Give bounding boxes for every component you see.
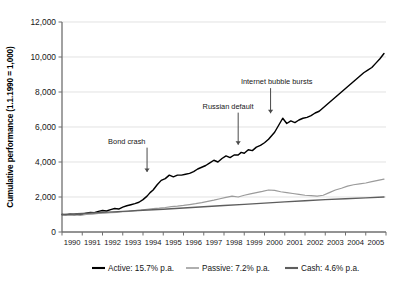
x-tick-label: 1999 [246,238,263,247]
series-line-cash [62,197,384,215]
annotation-label: Russian default [203,102,254,111]
annotation-label: Bond crash [108,137,145,146]
x-tick-label: 1995 [165,238,182,247]
x-tick-label: 2001 [286,238,303,247]
x-tick-label: 1992 [104,238,121,247]
x-tick-label: 1994 [145,238,162,247]
y-tick-label: 6,000 [35,122,56,132]
x-tick-label: 1996 [185,238,202,247]
legend-label-active: Active: 15.7% p.a. [108,264,174,273]
y-tick-label: 12,000 [30,17,56,27]
x-tick-label: 2003 [327,238,344,247]
annotation-arrow-head [268,110,273,113]
x-tick-label: 2000 [266,238,283,247]
x-tick-label: 1991 [84,238,101,247]
y-tick-label: 8,000 [35,87,56,97]
y-tick-label: 4,000 [35,157,56,167]
legend-label-passive: Passive: 7.2% p.a. [202,264,270,273]
x-tick-label: 2004 [347,238,364,247]
legend-label-cash: Cash: 4.6% p.a. [301,264,359,273]
performance-chart: 02,0004,0006,0008,00010,00012,0001990199… [0,0,400,287]
y-tick-label: 2,000 [35,192,56,202]
series-line-active [62,54,384,215]
annotation-arrow-head [236,141,241,144]
y-tick-label: 10,000 [30,52,56,62]
chart-canvas: 02,0004,0006,0008,00010,00012,0001990199… [0,0,400,287]
y-tick-label: 0 [51,227,56,237]
annotation-arrow-head [144,168,149,171]
x-tick-label: 1998 [226,238,243,247]
x-tick-label: 1993 [124,238,141,247]
x-tick-label: 2005 [367,238,384,247]
annotation-label: Internet bubble bursts [241,77,313,86]
y-axis-title: Cumulative performance (1.1.1990 = 1,000… [6,46,15,208]
x-tick-label: 1997 [205,238,222,247]
x-tick-label: 2002 [307,238,324,247]
x-tick-label: 1990 [64,238,81,247]
